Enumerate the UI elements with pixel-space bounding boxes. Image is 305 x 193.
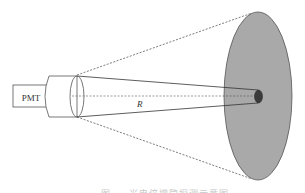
focus-spot	[255, 90, 263, 103]
fov-line-top	[77, 13, 252, 75]
pmt-detection-diagram: PMT R	[0, 0, 305, 193]
distance-label: R	[136, 99, 143, 109]
pmt-label: PMT	[22, 93, 41, 103]
fov-line-bottom	[77, 117, 252, 179]
figure-caption: 图 — 光电倍增管探测示意图	[92, 189, 238, 193]
